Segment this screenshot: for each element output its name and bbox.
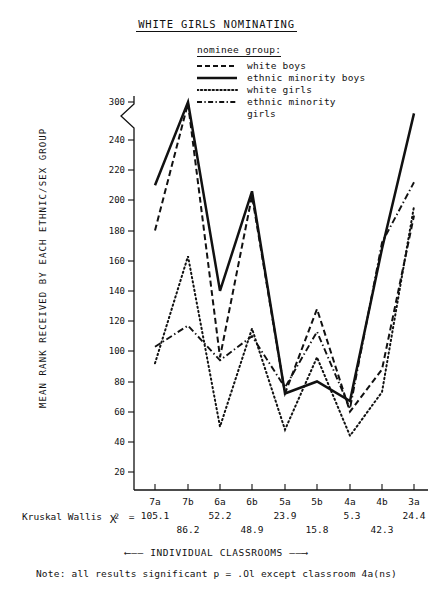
chi-value-7b: 86.2 [171,524,205,535]
equals-sign: = [129,511,135,522]
series-line-white-girls [155,206,414,435]
chi-value-5a: 23.9 [268,510,302,521]
y-ticks [128,102,134,472]
svg-text:200: 200 [109,195,125,205]
arrow-left-icon: ⟵—— [125,547,144,558]
svg-text:120: 120 [109,316,125,326]
x-cat-3a: 3a [399,496,429,507]
svg-text:100: 100 [109,346,125,356]
svg-text:80: 80 [114,377,125,387]
svg-text:60: 60 [114,407,125,417]
svg-text:40: 40 [114,437,125,447]
x-cat-7b: 7b [173,496,203,507]
series-line-ethnic-minority-boys [155,102,414,401]
svg-text:160: 160 [109,256,125,266]
x-cat-7a: 7a [140,496,170,507]
chi-value-6a: 52.2 [203,510,237,521]
x-cat-6a: 6a [205,496,235,507]
kruskal-wallis-text: Kruskal Wallis [22,511,102,522]
data-series-layer [155,102,414,436]
svg-text:20: 20 [114,467,125,477]
chi-value-5b: 15.8 [300,524,334,535]
x-cat-5a: 5a [270,496,300,507]
series-line-ethnic-minority-girls [155,182,414,408]
chi-value-4a: 5.3 [335,510,369,521]
chart-note: Note: all results significant p = .Ol ex… [0,568,433,579]
svg-text:220: 220 [109,165,125,175]
kruskal-wallis-label: Kruskal Wallis X2 = [22,510,134,523]
x-ticks [155,484,414,490]
x-cat-6b: 6b [237,496,267,507]
arrow-right-icon: ——⟶ [289,547,308,558]
chi-value-6b: 48.9 [235,524,269,535]
x-cat-4b: 4b [367,496,397,507]
chi-value-4b: 42.3 [365,524,399,535]
x-axis-caption: ⟵—— INDIVIDUAL CLASSROOMS ——⟶ [0,547,433,558]
chi-value-7a: 105.1 [138,510,172,521]
chi-value-3a: 24.4 [397,510,431,521]
svg-text:300: 300 [109,97,125,107]
svg-text:240: 240 [109,135,125,145]
x-axis-caption-text: INDIVIDUAL CLASSROOMS [150,547,283,558]
chi-exponent: 2 [114,512,119,521]
y-tick-labels: 20 40 60 80 100 120 140 160 180 200 220 … [109,97,125,477]
svg-text:180: 180 [109,226,125,236]
series-line-white-boys [155,103,414,411]
svg-text:140: 140 [109,286,125,296]
x-cat-4a: 4a [335,496,365,507]
x-cat-5b: 5b [302,496,332,507]
